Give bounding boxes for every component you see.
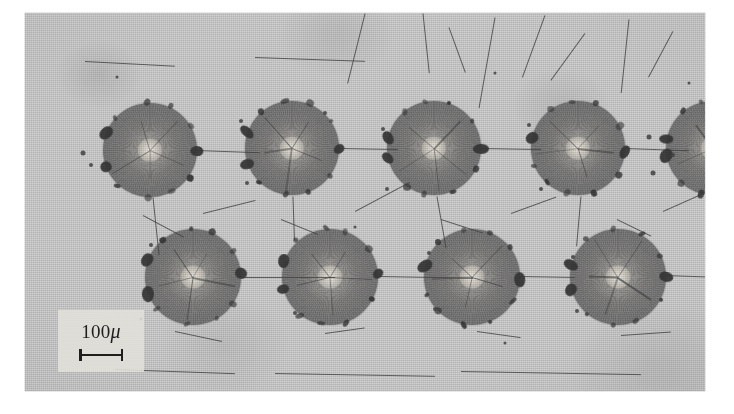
dust-speck bbox=[354, 226, 357, 229]
scale-bar-value: 100 bbox=[81, 321, 110, 342]
substrate-crack bbox=[347, 13, 365, 83]
substrate-crack bbox=[281, 219, 318, 235]
substrate-crack bbox=[551, 33, 586, 80]
dust-speck bbox=[116, 76, 119, 79]
scale-bar-rule bbox=[79, 349, 123, 361]
spot-edge-nodule bbox=[186, 174, 194, 182]
spot-edge-nodule bbox=[282, 190, 290, 198]
substrate-crack bbox=[449, 27, 466, 72]
dust-speck bbox=[381, 127, 385, 131]
spot-edge-nodule bbox=[141, 286, 154, 302]
scale-bar-label: 100μ bbox=[81, 321, 120, 341]
dust-speck bbox=[494, 72, 497, 75]
dust-speck bbox=[504, 342, 507, 345]
spot-edge-nodule bbox=[403, 108, 408, 115]
spot-edge-nodule bbox=[449, 189, 457, 195]
substrate-crack bbox=[175, 331, 222, 342]
substrate-crack bbox=[423, 13, 430, 73]
substrate-crack bbox=[511, 197, 556, 214]
dust-speck bbox=[293, 311, 297, 315]
spot-edge-nodule bbox=[569, 99, 576, 103]
scale-bar-shaft bbox=[79, 354, 123, 357]
spot-edge-nodule bbox=[191, 146, 204, 157]
melt-spot bbox=[666, 101, 705, 195]
substrate-crack bbox=[275, 373, 435, 376]
dust-speck bbox=[647, 135, 652, 140]
micrograph-figure: 100μ bbox=[0, 0, 734, 414]
dust-speck bbox=[285, 257, 289, 261]
substrate-crack bbox=[576, 196, 581, 246]
scale-bar-cap-right bbox=[121, 349, 124, 361]
substrate-crack bbox=[621, 332, 671, 336]
substrate-crack bbox=[479, 17, 496, 108]
dust-speck bbox=[239, 119, 243, 123]
dust-speck bbox=[89, 163, 93, 167]
dust-speck bbox=[433, 307, 437, 311]
spot-edge-nodule bbox=[403, 184, 411, 191]
dust-speck bbox=[385, 187, 389, 191]
spot-edge-nodule bbox=[435, 239, 441, 245]
substrate-crack bbox=[621, 19, 630, 93]
dust-speck bbox=[427, 251, 431, 255]
substrate-crack bbox=[239, 277, 335, 278]
spot-edge-nodule bbox=[473, 143, 489, 154]
substrate-crack bbox=[203, 200, 256, 214]
substrate-crack bbox=[522, 15, 545, 77]
scale-bar-panel: 100μ bbox=[58, 310, 144, 372]
micrograph-plate: 100μ bbox=[25, 13, 705, 391]
spot-edge-nodule bbox=[514, 271, 527, 288]
radial-crack bbox=[149, 151, 150, 179]
substrate-crack bbox=[293, 196, 295, 240]
spot-edge-nodule bbox=[547, 106, 554, 112]
substrate-crack bbox=[461, 371, 641, 375]
spot-edge-nodule bbox=[697, 189, 705, 199]
spot-edge-nodule bbox=[615, 170, 624, 179]
spot-edge-nodule bbox=[214, 315, 218, 320]
substrate-crack bbox=[648, 31, 673, 77]
dust-speck bbox=[149, 243, 153, 247]
dust-speck bbox=[571, 255, 575, 259]
scale-bar-unit: μ bbox=[110, 320, 120, 342]
dust-speck bbox=[688, 82, 691, 85]
substrate-crack bbox=[143, 215, 184, 237]
substrate-crack bbox=[338, 148, 398, 150]
substrate-crack bbox=[477, 331, 521, 338]
substrate-crack bbox=[355, 182, 410, 212]
dust-speck bbox=[527, 123, 531, 127]
substrate-crack bbox=[255, 57, 365, 61]
dust-speck bbox=[651, 171, 656, 176]
substrate-crack bbox=[481, 148, 541, 150]
spot-edge-nodule bbox=[114, 183, 121, 189]
dust-speck bbox=[323, 111, 327, 115]
substrate-crack bbox=[325, 327, 365, 333]
spot-rim bbox=[665, 100, 705, 196]
dust-speck bbox=[81, 151, 86, 156]
dust-speck bbox=[671, 153, 675, 157]
dust-speck bbox=[245, 181, 249, 185]
spot-edge-nodule bbox=[659, 134, 673, 143]
substrate-crack bbox=[519, 276, 575, 278]
dust-speck bbox=[575, 309, 579, 313]
dust-speck bbox=[539, 187, 543, 191]
substrate-crack bbox=[85, 61, 175, 66]
